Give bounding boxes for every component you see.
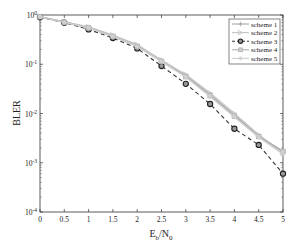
legend-label: scheme 3 — [251, 38, 278, 46]
x-tick-label: 4 — [233, 215, 237, 224]
x-tick-label: 3 — [184, 215, 188, 224]
x-tick-label: 4.5 — [254, 215, 264, 224]
legend-label: scheme 4 — [251, 46, 278, 54]
bler-chart: 00.511.522.533.544.55 10010-110-210-310-… — [0, 0, 299, 251]
x-tick-label: 5 — [281, 215, 285, 224]
x-tick-label: 2.5 — [157, 215, 167, 224]
y-tick-label: 100 — [27, 10, 38, 20]
x-tick-label: 3.5 — [205, 215, 215, 224]
x-axis-label: Eb/N0 — [149, 228, 173, 242]
y-tick-label: 10-4 — [25, 207, 37, 217]
y-tick-label: 10-3 — [25, 158, 37, 168]
x-tick-label: 1.5 — [108, 215, 118, 224]
y-tick-label: 10-1 — [25, 59, 37, 69]
y-tick-label: 10-2 — [25, 109, 37, 119]
x-tick-label: 2 — [135, 215, 139, 224]
legend: scheme 1scheme 2scheme 3scheme 4scheme 5 — [229, 19, 280, 64]
legend-label: scheme 1 — [251, 21, 278, 29]
legend-label: scheme 2 — [251, 29, 278, 37]
x-tick-label: 1 — [87, 215, 91, 224]
y-axis-label: BLER — [11, 100, 22, 126]
x-tick-label: 0 — [38, 215, 42, 224]
x-tick-label: 0.5 — [60, 215, 70, 224]
legend-label: scheme 5 — [251, 55, 278, 63]
